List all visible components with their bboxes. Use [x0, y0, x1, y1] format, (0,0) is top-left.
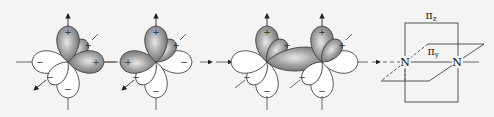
- axis-line: [92, 34, 98, 40]
- minus-sign: −: [152, 86, 160, 96]
- pi-bond-planes: N N πz πy: [381, 9, 484, 102]
- plus-sign: +: [283, 40, 291, 50]
- plus-sign: +: [84, 40, 92, 50]
- minus-sign: −: [298, 72, 306, 82]
- n-atom-orbitals-1: + + + − − −: [16, 14, 116, 110]
- nitrogen-atom-left: N: [400, 56, 410, 69]
- minus-sign: −: [180, 57, 188, 67]
- n2-bonding-diagram: + + + − − − + + + − − −: [0, 0, 494, 117]
- plus-sign: +: [64, 27, 72, 37]
- plus-sign: +: [124, 57, 132, 67]
- orbital-overlap: + + − − + + − −: [231, 14, 368, 110]
- pi-z-plane: [405, 23, 458, 102]
- n-atom-orbitals-2: + + + − − −: [104, 14, 192, 110]
- minus-sign: −: [64, 84, 72, 94]
- plus-sign: +: [263, 27, 271, 37]
- minus-sign: −: [263, 86, 271, 96]
- minus-sign: −: [318, 86, 326, 96]
- minus-sign: −: [132, 72, 140, 82]
- plus-sign: +: [318, 27, 326, 37]
- plus-sign: +: [152, 27, 160, 37]
- minus-sign: −: [243, 72, 251, 82]
- minus-sign: −: [46, 72, 54, 82]
- minus-sign: −: [36, 57, 44, 67]
- plus-sign: +: [172, 40, 180, 50]
- nitrogen-atom-right: N: [452, 56, 462, 69]
- axis-line: [346, 34, 352, 40]
- pi-y-label: πy: [427, 45, 438, 59]
- pi-z-label: πz: [426, 9, 437, 23]
- plus-sign: +: [92, 57, 100, 67]
- plus-sign: +: [338, 40, 346, 50]
- y-axis-arrow-icon: [34, 80, 46, 90]
- axis-line: [180, 34, 186, 40]
